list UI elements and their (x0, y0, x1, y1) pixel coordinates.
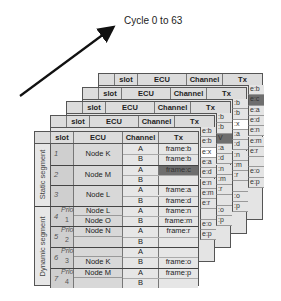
back-tx-fragment: e:c (248, 95, 264, 105)
priority-label: Prio (61, 206, 73, 213)
back-tx-fragment: e:d (248, 116, 264, 126)
ecu-cell: Node O (74, 216, 123, 226)
slot-number: 3 (54, 190, 58, 199)
channel-cell: A (123, 247, 159, 257)
back-tx-fragment (248, 157, 264, 167)
back-tx-fragment: :b (216, 123, 232, 133)
back-tx-fragment: :r (232, 171, 248, 181)
back-tx-fragment: :b (232, 99, 248, 109)
col-ecu: ECU (106, 102, 155, 113)
tx-cell: frame:o (159, 257, 198, 267)
back-tx-fragment: :r (216, 185, 232, 195)
col-tx: Tx (159, 132, 198, 143)
tx-cell: frame:n (159, 206, 198, 216)
tx-cell: frame:a (159, 185, 198, 195)
slot-divider (35, 206, 198, 207)
static-segment-label: Static segment (35, 144, 51, 206)
back-tx-fragment: :n (232, 151, 248, 161)
ecu-cell: Node N (74, 226, 123, 236)
slot-number: 5 (54, 232, 58, 241)
ecu-cell (74, 247, 123, 257)
slot-cell: 3 (51, 185, 74, 206)
col-tx: Tx (175, 116, 214, 127)
col-ecu: ECU (138, 74, 187, 85)
back-tx-fragment (216, 195, 232, 205)
channel-divider (123, 237, 198, 238)
slot-divider (51, 247, 198, 248)
ecu-cell: Node K (74, 144, 123, 165)
channel-cell: A (123, 185, 159, 195)
channel-cell: B (123, 154, 159, 164)
slot-divider (51, 165, 198, 166)
back-tx-fragment: e:x (200, 148, 216, 158)
back-tx-fragment: e:m (248, 137, 264, 147)
priority-label: Prio (61, 226, 73, 233)
col-segment (35, 132, 51, 143)
col-tx: Tx (191, 102, 230, 113)
channel-cell: B (123, 257, 159, 267)
col-ecu: ECU (122, 88, 171, 99)
col-slot: slot (99, 88, 122, 99)
priority-label: Prio (61, 268, 73, 275)
back-tx-fragment: e:n (200, 179, 216, 189)
back-tx-fragment: e:b (200, 137, 216, 147)
back-tx-fragment: V (216, 134, 232, 144)
slot-divider (51, 268, 198, 269)
tx-cell: frame:b (159, 144, 198, 154)
channel-cell: B (123, 216, 159, 226)
back-tx-fragment: e:a (200, 158, 216, 168)
col-channel: Channel (187, 74, 223, 85)
back-tx-fragment: e:b (248, 85, 264, 95)
back-tx-fragment: e:r (248, 147, 264, 157)
tx-cell: frame:m (159, 216, 198, 226)
back-tx-fragment: e:a (248, 106, 264, 116)
channel-divider (123, 154, 198, 155)
back-tx-fragment: :o (216, 206, 232, 216)
back-tx-fragment: :p (216, 216, 232, 226)
back-tx-fragment: :p (232, 202, 248, 212)
back-tx-fragment: e:n (248, 126, 264, 136)
back-tx-fragment: :a (232, 130, 248, 140)
col-channel: Channel (123, 132, 159, 143)
channel-divider (123, 175, 198, 176)
back-tx-fragment: :m (232, 161, 248, 171)
ecu-cell: Node L (74, 185, 123, 206)
slot-number: 7 (54, 274, 58, 283)
priority-label: Prio (61, 247, 73, 254)
back-tx-fragment: :x (232, 120, 248, 130)
back-tx-fragment (232, 181, 248, 191)
col-slot: slot (51, 132, 74, 143)
tx-cell (159, 278, 198, 288)
dynamic-segment-label: Dynamic segment (35, 206, 51, 288)
slot-cell: 6Prio3 (51, 247, 74, 268)
back-tx-fragment: e:r (200, 199, 216, 209)
col-slot: slot (67, 116, 90, 127)
priority-number: 1 (65, 216, 69, 223)
back-tx-fragment: e:p (200, 230, 216, 240)
col-ecu: ECU (74, 132, 123, 143)
back-tx-fragment: e:d (200, 168, 216, 178)
tx-cell: frame:b (159, 154, 198, 164)
channel-divider (123, 196, 198, 197)
col-ecu: ECU (90, 116, 139, 127)
tx-cell: frame:d (159, 196, 198, 206)
back-tx-fragment: e:b (200, 127, 216, 137)
back-tx-fragment: e:o (248, 167, 264, 177)
col-slot: slot (115, 74, 138, 85)
col-slot: slot (83, 102, 106, 113)
table-body: Static segment Dynamic segment 1Node KAf… (35, 144, 198, 287)
slot-cell: 7Prio4 (51, 268, 74, 289)
channel-cell: B (123, 175, 159, 185)
slot-number: 6 (54, 253, 58, 262)
back-tx-fragment: :n (216, 165, 232, 175)
back-tx-fragment: :d (216, 154, 232, 164)
back-tx-fragment: e:p (248, 178, 264, 188)
channel-divider (123, 216, 198, 217)
back-tx-fragment: e:m (200, 189, 216, 199)
back-tx-fragment (200, 209, 216, 219)
channel-cell: A (123, 268, 159, 278)
back-tx-fragment: :b (232, 109, 248, 119)
slot-cell: 2 (51, 165, 74, 186)
channel-cell: A (123, 226, 159, 236)
tx-cell: frame:p (159, 268, 198, 278)
